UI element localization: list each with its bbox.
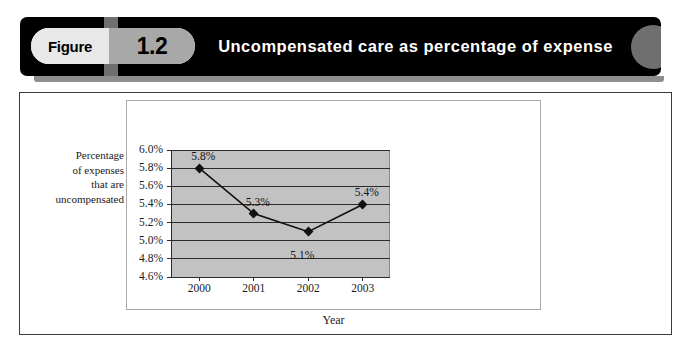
y-tick-label: 5.6%	[119, 180, 163, 192]
figure-title: Uncompensated care as percentage of expe…	[210, 17, 621, 76]
y-axis-title-line-2: of expenses	[28, 163, 124, 178]
x-tick-mark	[199, 277, 200, 281]
x-tick-mark	[308, 277, 309, 281]
figure-number: 1.2	[109, 28, 195, 64]
y-tick-label: 5.8%	[119, 162, 163, 174]
data-point-label: 5.8%	[178, 151, 228, 163]
data-point-label: 5.3%	[233, 197, 283, 209]
figure-badge: Figure 1.2	[31, 28, 195, 64]
x-tick-label: 2000	[169, 283, 229, 295]
y-tick-label: 5.0%	[119, 235, 163, 247]
y-tick-label: 5.4%	[119, 198, 163, 210]
x-tick-mark	[362, 277, 363, 281]
x-tick-label: 2002	[278, 283, 338, 295]
y-tick-label: 6.0%	[119, 144, 163, 156]
y-tick-label: 5.2%	[119, 217, 163, 229]
banner-circle-decoration	[631, 25, 661, 69]
x-axis-title: Year	[126, 313, 541, 328]
figure-label: Figure	[31, 28, 109, 64]
y-axis-title-line-3: that are	[28, 177, 124, 192]
figure-page: Figure 1.2 Uncompensated care as percent…	[0, 0, 689, 355]
y-axis-title: Percentage of expenses that are uncompen…	[28, 148, 124, 206]
data-point-label: 5.4%	[342, 187, 392, 199]
x-tick-label: 2003	[333, 283, 393, 295]
y-axis-title-line-4: uncompensated	[28, 192, 124, 207]
y-tick-label: 4.8%	[119, 253, 163, 265]
data-point-label: 5.1%	[277, 250, 327, 262]
plot-wrapper: 6.0%5.8%5.6%5.4%5.2%5.0%4.8%4.6% 2000200…	[172, 150, 390, 277]
figure-header-banner: Figure 1.2 Uncompensated care as percent…	[20, 17, 661, 76]
banner-shadow	[34, 76, 664, 82]
y-tick-label: 4.6%	[119, 271, 163, 283]
x-tick-mark	[253, 277, 254, 281]
y-axis-title-line-1: Percentage	[28, 148, 124, 163]
x-tick-label: 2001	[224, 283, 284, 295]
